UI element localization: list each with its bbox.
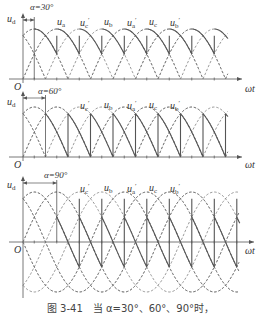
panel1-phase-label: ua <box>57 17 65 29</box>
panel3-alpha-arrow-right-icon <box>53 181 57 185</box>
panel3-y-axis-arrow-icon <box>21 176 25 181</box>
panel3-y-axis-label: ud <box>7 180 16 192</box>
panel3-phase-label: ub′ <box>170 183 180 196</box>
panel1-x-axis-arrow-icon <box>237 77 242 81</box>
waveform-figure: ud α=30° O ωt ud α=60° O ωt ud α=90° O ω… <box>0 0 261 318</box>
panel1-y-axis-arrow-icon <box>21 13 25 18</box>
panel2-phase-label: uc <box>149 100 157 112</box>
waveform-plot <box>0 0 261 300</box>
panel2-x-axis-arrow-icon <box>237 155 242 159</box>
panel2-alpha-arrow-right-icon <box>42 96 46 100</box>
panel1-alpha-label: α=30° <box>30 2 53 12</box>
panel1-alpha-arrow-left-icon <box>23 18 27 22</box>
panel3-phase-label: uc <box>149 183 157 195</box>
panel3-x-axis-arrow-icon <box>249 240 254 244</box>
panel3-alpha-label: α=90° <box>44 170 67 180</box>
panel2-phase-label: ub <box>104 100 113 112</box>
panel1-phase-label: ub <box>104 17 113 29</box>
panel1-phase-label: ua′ <box>127 17 137 30</box>
panel3-phase-label: ub <box>104 183 113 195</box>
panel2-phase-label: ub′ <box>170 100 180 113</box>
panel1-phase-label: uc′ <box>80 17 90 30</box>
panel2-alpha-label: α=60° <box>38 86 61 96</box>
panel1-y-axis-label: ud <box>7 14 16 26</box>
panel1-origin-label: O <box>14 82 21 92</box>
panel1-x-axis-label: ωt <box>245 84 255 94</box>
panel1-phase-label: ub′ <box>170 17 180 30</box>
panel2-x-axis-label: ωt <box>245 160 255 170</box>
panel3-alpha-arrow-left-icon <box>23 181 27 185</box>
panel1-alpha-arrow-right-icon <box>30 18 34 22</box>
panel3-phase-label: ua′ <box>127 183 137 196</box>
panel2-phase-label: uc′ <box>80 100 90 113</box>
panel3-origin-label: O <box>14 245 21 255</box>
panel1-phase-label: uc <box>149 17 157 29</box>
panel2-origin-label: O <box>14 160 21 170</box>
panel2-y-axis-label: ud <box>7 97 16 109</box>
panel2-alpha-arrow-left-icon <box>23 96 27 100</box>
panel2-phase-label: ua′ <box>127 100 137 113</box>
panel1-output-voltage-waveform <box>34 29 228 54</box>
panel3-x-axis-label: ωt <box>245 246 255 256</box>
panel2-output-voltage-waveform <box>46 114 228 157</box>
panel3-phase-label: uc′ <box>80 183 90 196</box>
panel2-y-axis-arrow-icon <box>21 91 25 96</box>
figure-caption: 图 3-41 当 α=30°、60°、90°时， <box>0 300 261 315</box>
